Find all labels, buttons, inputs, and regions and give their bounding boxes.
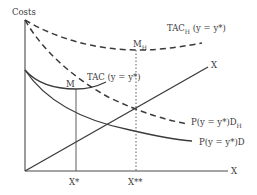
tac-h-label: TACH (y = y*)	[167, 23, 226, 35]
x-axis-label: X	[231, 166, 238, 176]
x-line	[25, 67, 208, 171]
cost-curves-diagram: Costs X TACH (y = y*) P(y = y*)DH TAC (y…	[0, 0, 257, 195]
p-d-label: P(y = y*)D	[199, 137, 245, 147]
y-axis-label: Costs	[12, 7, 36, 17]
x-double-star-tick-label: X**	[128, 177, 143, 187]
point-m-label: M	[66, 79, 75, 89]
x-star-tick-label: X*	[69, 177, 80, 187]
tac-label: TAC (y = y*)	[87, 72, 141, 82]
p-dh-label: P(y = y*)DH	[191, 117, 242, 129]
x-line-label: X	[211, 60, 218, 70]
point-mh-label: MH	[133, 39, 147, 51]
